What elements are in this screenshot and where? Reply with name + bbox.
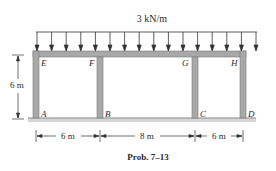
load-arrow-icon: [166, 45, 170, 51]
load-arrow-icon: [137, 45, 141, 51]
load-arrow-icon: [50, 45, 54, 51]
joint-label-G: G: [182, 58, 189, 68]
load-arrow-icon: [239, 45, 243, 51]
load-arrow-icon: [210, 45, 214, 51]
joint-label-F: F: [88, 58, 95, 68]
span-label-BC: 8 m: [140, 131, 154, 141]
load-label: 3 kN/m: [137, 13, 168, 24]
joint-label-H: H: [230, 58, 238, 68]
ground: [28, 118, 256, 122]
load-arrow-icon: [152, 45, 156, 51]
joint-label-A: A: [40, 109, 47, 119]
column-CG: [192, 57, 198, 118]
load-arrow-icon: [93, 45, 97, 51]
load-arrow-icon: [35, 45, 39, 51]
top-beam-EH: [33, 51, 246, 57]
column-AE: [33, 51, 39, 118]
column-BF: [97, 57, 103, 118]
height-dimension-label: 6 m: [10, 80, 24, 90]
load-arrow-icon: [108, 45, 112, 51]
column-DH: [240, 51, 246, 118]
span-label-AB: 6 m: [61, 131, 75, 141]
load-arrow-icon: [254, 45, 258, 51]
load-arrow-icon: [181, 45, 185, 51]
joint-label-B: B: [105, 109, 111, 119]
load-arrow-icon: [225, 45, 229, 51]
span-label-CD: 6 m: [212, 131, 226, 141]
frame-diagram: 3 kN/m E F G H A B C D 6 m 6 m 8 m 6 m: [0, 0, 276, 171]
load-arrow-icon: [64, 45, 68, 51]
joint-label-D: D: [247, 109, 255, 119]
load-arrow-icon: [123, 45, 127, 51]
problem-caption: Prob. 7–13: [127, 152, 169, 162]
load-arrow-icon: [196, 45, 200, 51]
joint-label-E: E: [40, 58, 47, 68]
distributed-load: [35, 32, 258, 51]
joint-label-C: C: [200, 109, 207, 119]
load-arrow-icon: [79, 45, 83, 51]
